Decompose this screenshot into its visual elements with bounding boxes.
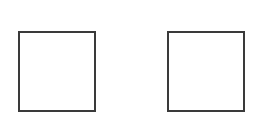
right-square: [167, 31, 245, 112]
left-square: [18, 31, 96, 112]
diagram-canvas: [0, 0, 257, 135]
